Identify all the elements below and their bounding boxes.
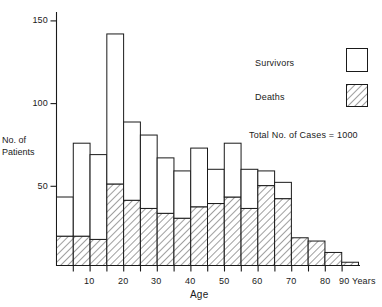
xtick-label-10: 10 xyxy=(84,276,94,286)
bar-segment-survivors xyxy=(191,148,208,207)
bar-segment-deaths xyxy=(124,200,141,265)
ytick-label-150: 150 xyxy=(26,15,48,25)
y-axis-title-line1: No. of xyxy=(2,134,50,146)
bar-series-group xyxy=(57,34,359,266)
bar-segment-survivors xyxy=(157,158,174,213)
x-axis-title: Age xyxy=(190,289,208,300)
bar-segment-survivors xyxy=(124,122,141,200)
bar-segment-deaths xyxy=(140,208,157,265)
legend-swatch-survivors-open-box xyxy=(346,48,368,72)
bar-segment-deaths xyxy=(191,207,208,266)
bar-segment-survivors xyxy=(107,34,124,184)
bar-segment-deaths xyxy=(174,218,191,265)
xtick-label-90: 90 xyxy=(339,276,349,286)
hatch-fill-icon xyxy=(347,85,367,106)
bar-segment-deaths xyxy=(342,262,359,265)
bar-segment-survivors xyxy=(90,155,107,240)
legend-label-deaths: Deaths xyxy=(255,92,285,102)
legend-label-survivors: Survivors xyxy=(255,58,294,68)
bar-segment-survivors xyxy=(241,169,258,208)
chart-plot-area xyxy=(0,0,382,307)
xtick-label-40: 40 xyxy=(185,276,195,286)
bar-segment-deaths xyxy=(224,197,241,265)
bar-segment-survivors xyxy=(57,197,74,236)
xtick-label-20: 20 xyxy=(118,276,128,286)
xtick-label-80: 80 xyxy=(320,276,330,286)
total-cases-annotation: Total No. of Cases = 1000 xyxy=(249,130,358,140)
bar-segment-deaths xyxy=(157,213,174,265)
bar-segment-survivors xyxy=(73,143,90,236)
bar-segment-deaths xyxy=(325,252,342,265)
bar-segment-deaths xyxy=(241,208,258,265)
xtick-label-60: 60 xyxy=(252,276,262,286)
xtick-label-30: 30 xyxy=(151,276,161,286)
bar-segment-deaths xyxy=(90,239,107,265)
bar-segment-deaths xyxy=(57,236,74,265)
bar-segment-deaths xyxy=(308,241,325,265)
ytick-label-100: 100 xyxy=(26,98,48,108)
xtick-label-50: 50 xyxy=(219,276,229,286)
y-axis-title-line2: Patients xyxy=(2,146,50,158)
bar-segment-deaths xyxy=(291,238,308,266)
bar-segment-deaths xyxy=(73,236,90,265)
legend-swatch-deaths-hatched-box xyxy=(346,84,368,107)
bar-segment-deaths xyxy=(208,204,225,266)
xtick-label-70: 70 xyxy=(286,276,296,286)
bar-segment-deaths xyxy=(107,184,124,266)
bar-segment-survivors xyxy=(174,171,191,218)
bar-segment-survivors xyxy=(258,171,275,186)
bar-segment-survivors xyxy=(140,135,157,208)
histogram-figure: 150 100 50 No. of Patients 10 20 30 40 5… xyxy=(0,0,382,307)
ytick-label-50: 50 xyxy=(26,181,48,191)
x-axis-ticks xyxy=(73,266,342,272)
y-axis-ticks xyxy=(51,21,57,186)
y-axis-title: No. of Patients xyxy=(2,134,50,158)
bar-segment-deaths xyxy=(258,186,275,266)
bar-segment-survivors xyxy=(208,169,225,203)
x-axis-unit-label: Years xyxy=(352,276,376,286)
bar-segment-survivors xyxy=(275,182,292,198)
bar-segment-deaths xyxy=(275,199,292,266)
bar-segment-survivors xyxy=(224,143,241,197)
